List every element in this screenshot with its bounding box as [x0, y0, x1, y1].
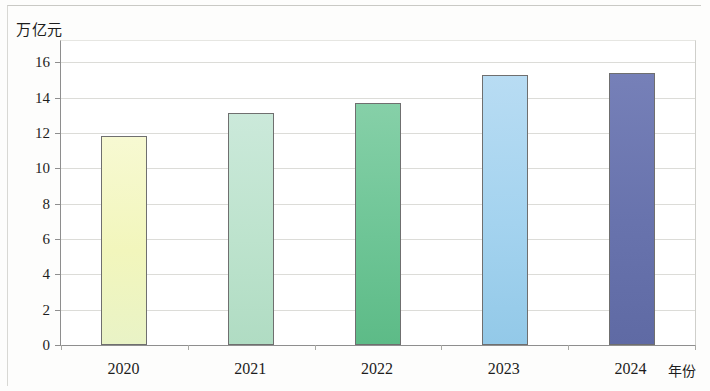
- y-tick-label: 14: [35, 89, 50, 106]
- y-tick-mark: [55, 274, 61, 275]
- x-tick-label-2024: 2024: [615, 360, 647, 378]
- y-tick-label: 10: [35, 160, 50, 177]
- y-tick-mark: [55, 239, 61, 240]
- bar-2022: [355, 103, 401, 345]
- y-tick-label: 0: [43, 337, 51, 354]
- bar-2023: [482, 75, 528, 345]
- bar-2020: [101, 136, 147, 345]
- x-axis-caption-label: 年份: [668, 360, 696, 380]
- y-tick-label: 8: [43, 195, 51, 212]
- bar-2024: [609, 73, 655, 345]
- y-tick-label: 2: [43, 301, 51, 318]
- y-tick-label: 6: [43, 230, 51, 247]
- x-tick-label-2020: 2020: [107, 360, 139, 378]
- x-tick-label-2021: 2021: [234, 360, 266, 378]
- x-tick-label-2023: 2023: [488, 360, 520, 378]
- plot-area: 0246810121416: [60, 40, 696, 346]
- y-tick-mark: [55, 310, 61, 311]
- y-tick-mark: [55, 62, 61, 63]
- y-tick-label: 16: [35, 54, 50, 71]
- y-tick-mark: [55, 133, 61, 134]
- bar-chart-figure: 万亿元 0246810121416 20202021202220232024 年…: [0, 0, 710, 391]
- bar-2021: [228, 113, 274, 345]
- x-axis-labels: 20202021202220232024: [60, 346, 696, 386]
- gridline: [61, 62, 695, 63]
- y-tick-label: 12: [35, 124, 50, 141]
- y-tick-mark: [55, 204, 61, 205]
- y-tick-mark: [55, 168, 61, 169]
- y-tick-label: 4: [43, 266, 51, 283]
- gridline: [61, 98, 695, 99]
- x-tick-label-2022: 2022: [361, 360, 393, 378]
- y-tick-mark: [55, 98, 61, 99]
- y-axis-unit-label: 万亿元: [16, 18, 63, 39]
